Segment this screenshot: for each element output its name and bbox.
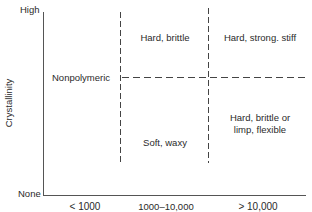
region-hard-brittle-or-limp-flexible: Hard, brittle or limp, flexible [212,112,308,136]
boundary-10000-dashed-line [208,8,209,163]
x-category-1000-10000: 1000–10,000 [128,201,204,212]
region-text-line-2: limp, flexible [212,124,308,136]
region-nonpolymeric: Nonpolymeric [52,72,110,83]
y-axis-line [43,12,44,196]
y-axis-none-label: None [18,188,41,199]
region-hard-brittle: Hard, brittle [122,32,208,43]
y-axis-high-label: High [20,4,40,15]
y-axis-title: Crystallinity [3,79,14,128]
region-soft-waxy: Soft, waxy [122,137,208,148]
x-category-lt-1000: < 1000 [58,201,112,212]
region-text-line-1: Hard, brittle or [212,112,308,124]
boundary-1000-dashed-line [120,12,121,164]
x-axis-line [43,195,306,196]
crystallinity-boundary-dashed-line [122,77,305,78]
x-category-gt-10000: > 10,000 [226,201,290,212]
region-hard-strong-stiff: Hard, strong. stiff [212,32,308,43]
